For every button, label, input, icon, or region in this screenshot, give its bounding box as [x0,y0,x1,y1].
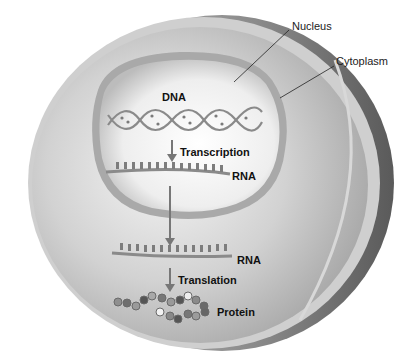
label-rna-nuclear: RNA [232,171,256,182]
label-dna: DNA [162,92,186,103]
label-cytoplasm: Cytoplasm [336,56,388,67]
nucleus [92,52,287,219]
label-translation: Translation [178,275,237,286]
label-protein: Protein [217,307,255,318]
label-nucleus: Nucleus [292,21,332,32]
label-transcription: Transcription [180,147,250,158]
central-dogma-diagram: Nucleus Cytoplasm DNA Transcription RNA … [0,0,398,355]
cell-illustration [0,0,398,355]
label-rna-cytoplasmic: RNA [237,255,261,266]
